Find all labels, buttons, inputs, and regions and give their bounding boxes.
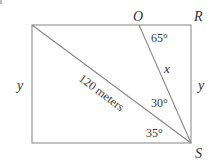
point-label-r: R — [193, 9, 203, 24]
point-label-o: O — [133, 9, 143, 24]
geometry-diagram: O R S y y x 120 meters 65° 30° 35° — [0, 0, 214, 168]
angle-label-65: 65° — [151, 31, 168, 45]
diagonal-label: 120 meters — [76, 71, 127, 114]
point-label-s: S — [195, 146, 202, 161]
segment-label-x: x — [163, 61, 170, 76]
angle-label-30: 30° — [151, 96, 168, 110]
side-label-right-y: y — [196, 78, 205, 93]
corner-mark — [0, 0, 2, 4]
side-label-left-y: y — [15, 78, 24, 93]
angle-label-35: 35° — [146, 126, 163, 140]
